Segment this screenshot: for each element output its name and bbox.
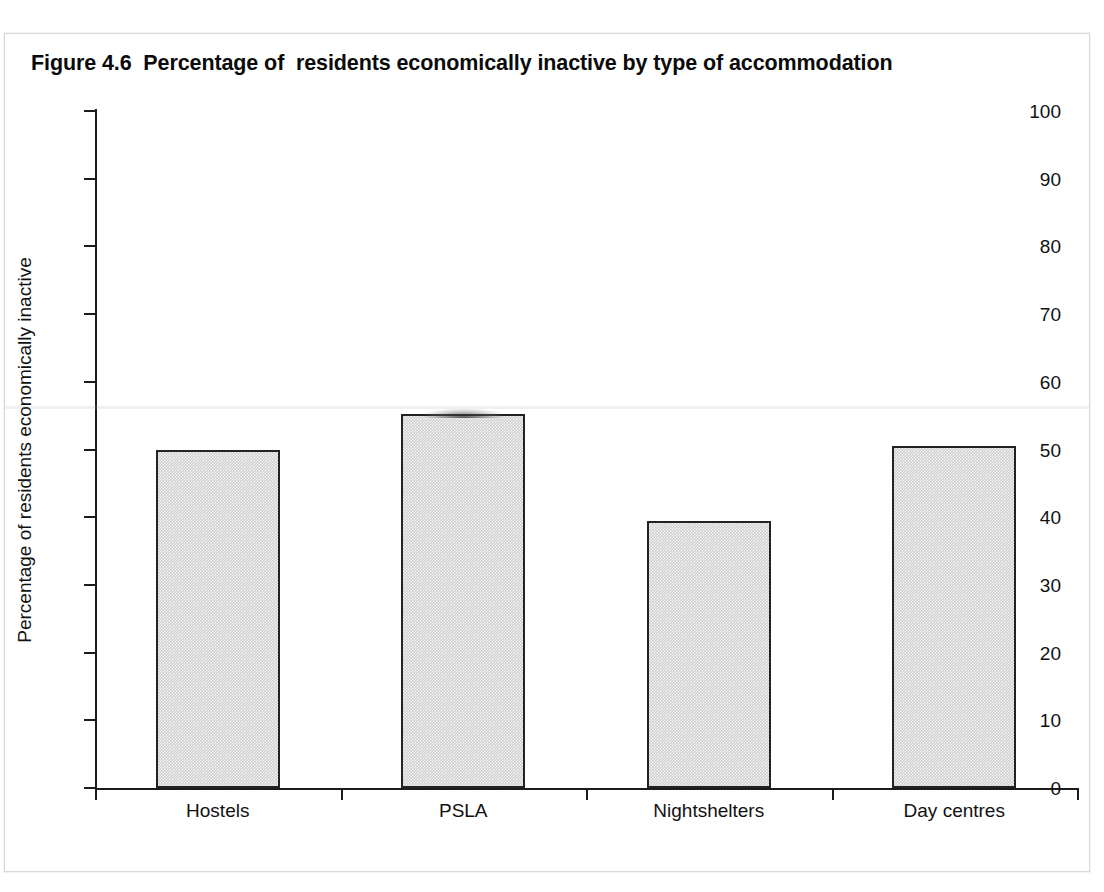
chart-title: Figure 4.6 Percentage of residents econo… (31, 51, 893, 76)
bar-psla (401, 414, 525, 788)
y-tick-mark (84, 787, 95, 789)
bar-day-centres (892, 446, 1016, 788)
x-tick-mark (1077, 788, 1079, 800)
x-tick-mark (832, 788, 834, 800)
y-tick-label: 20 (1040, 643, 1061, 662)
x-tick-label: PSLA (439, 800, 488, 822)
y-axis-title-text: Percentage of residents economically ina… (14, 257, 36, 642)
y-tick-label: 0 (1050, 779, 1061, 798)
x-tick-label: Hostels (186, 800, 249, 822)
y-tick-mark (84, 110, 95, 112)
y-tick-label: 30 (1040, 575, 1061, 594)
y-tick-mark (84, 719, 95, 721)
bar-hostels (156, 450, 280, 789)
figure-frame: Figure 4.6 Percentage of residents econo… (4, 33, 1090, 872)
bar-nightshelters (647, 521, 771, 788)
y-axis-line (95, 109, 97, 790)
x-tick-mark (341, 788, 343, 800)
y-tick-mark (84, 449, 95, 451)
x-tick-mark (95, 788, 97, 800)
y-tick-label: 60 (1040, 372, 1061, 391)
y-axis-title: Percentage of residents economically ina… (12, 111, 38, 788)
y-tick-mark (84, 245, 95, 247)
y-tick-label: 80 (1040, 237, 1061, 256)
y-tick-mark (84, 584, 95, 586)
y-tick-mark (84, 313, 95, 315)
y-tick-mark (84, 516, 95, 518)
y-tick-label: 50 (1040, 440, 1061, 459)
y-tick-label: 40 (1040, 508, 1061, 527)
y-tick-mark (84, 652, 95, 654)
x-tick-mark (586, 788, 588, 800)
plot-area: 1009080706050403020100 HostelsPSLANights… (95, 111, 1077, 788)
y-tick-mark (84, 381, 95, 383)
x-tick-label: Nightshelters (653, 800, 764, 822)
y-tick-mark (84, 178, 95, 180)
y-tick-label: 10 (1040, 711, 1061, 730)
y-tick-label: 90 (1040, 169, 1061, 188)
x-tick-label: Day centres (904, 800, 1005, 822)
y-tick-label: 70 (1040, 305, 1061, 324)
y-tick-label: 100 (1029, 102, 1061, 121)
